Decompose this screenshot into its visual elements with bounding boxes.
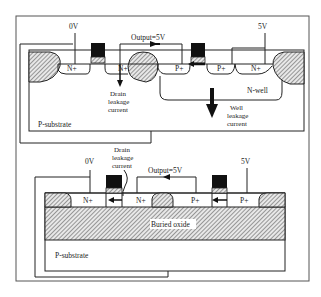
bulk-cmos-cross-section: 0V 5V Output=5V N+ N+ P+ P+ N+ N-well P-… <box>20 22 304 143</box>
well-leakage-arrow <box>210 88 214 104</box>
soi-nplus-source-label: N+ <box>83 196 93 205</box>
nplus-source-label: N+ <box>67 64 77 73</box>
vdd-contact-wire <box>232 33 265 64</box>
soi-nmos-leakage-arrowhead-icon <box>108 197 114 203</box>
nmos-gate-oxide <box>91 57 105 63</box>
well-leakage-label-line2: leakage <box>227 112 248 120</box>
soi-pplus-source-label: P+ <box>240 196 248 205</box>
drain-leakage-label-line1: Drain <box>110 90 126 98</box>
diagram-canvas: 0V 5V Output=5V N+ N+ P+ P+ N+ N-well P-… <box>0 0 321 297</box>
soi-substrate-label: P-substrate <box>55 251 89 260</box>
pmos-gate <box>191 43 205 57</box>
buried-oxide-label: Buried oxide <box>151 220 191 229</box>
soi-drain-leakage-label-line1: Drain <box>114 146 130 154</box>
output-label: Output=5V <box>131 33 166 42</box>
pplus-drain-region <box>158 64 190 74</box>
vss-label: 0V <box>69 22 79 31</box>
soi-pmos-gate-oxide <box>212 188 227 193</box>
soi-vdd-label: 5V <box>241 157 251 166</box>
bulk-substrate-label: P-substrate <box>38 120 72 129</box>
soi-cmos-cross-section: Buried oxide 0V 5V Output=5V N+ N+ P+ <box>35 146 285 277</box>
well-leakage-label-line1: Well <box>230 104 243 112</box>
soi-pmos-gate <box>212 175 227 188</box>
drain-leakage-arrowhead-icon <box>117 80 123 87</box>
soi-nmos-gate-oxide <box>106 188 122 193</box>
soi-output-wire <box>137 177 196 193</box>
soi-nmos-gate <box>106 175 122 188</box>
soi-pmos-leakage-arrowhead-icon <box>212 197 218 203</box>
soi-vss-label: 0V <box>85 157 95 166</box>
soi-pplus-drain-label: P+ <box>191 196 199 205</box>
drain-leakage-label-line3: current <box>108 106 128 114</box>
nwell-label: N-well <box>247 86 268 95</box>
soi-isolation-middle <box>152 193 173 207</box>
drain-leakage-label-line2: leakage <box>108 98 129 106</box>
soi-output-label: Output=5V <box>148 166 183 175</box>
soi-drain-leakage-callout-line <box>123 170 128 196</box>
soi-drain-leakage-label-line2: leakage <box>112 154 133 162</box>
well-leakage-arrowhead-icon <box>206 104 218 118</box>
nplus-tap-label: N+ <box>251 64 261 73</box>
field-oxide-left <box>29 52 60 82</box>
nmos-gate <box>91 43 105 57</box>
vdd-label: 5V <box>258 22 268 31</box>
field-oxide-middle <box>128 52 158 82</box>
pplus-source-label: P+ <box>217 64 225 73</box>
well-leakage-label-line3: current <box>227 120 247 128</box>
soi-isolation-right <box>259 193 285 207</box>
soi-drain-leakage-label-line3: current <box>112 162 132 170</box>
soi-nplus-drain-label: N+ <box>136 196 146 205</box>
pplus-drain-label: P+ <box>175 64 183 73</box>
soi-isolation-left <box>45 193 71 207</box>
field-oxide-right <box>273 52 304 84</box>
